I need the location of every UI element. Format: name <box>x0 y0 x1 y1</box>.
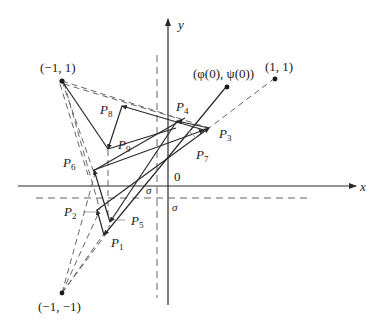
sigma-label-left: σ <box>146 185 151 196</box>
bottom-left-point-label: (−1, −1) <box>38 300 81 313</box>
label-p2: P2 <box>64 205 76 221</box>
label-p3: P3 <box>219 127 231 143</box>
segment-extra <box>93 118 185 171</box>
label-p4: P4 <box>176 100 188 116</box>
segment-p7-p8 <box>122 106 204 130</box>
sigma-label-right: σ <box>172 202 177 213</box>
label-p6: P6 <box>63 156 75 172</box>
point-bottom-left <box>60 291 65 296</box>
start-point-label: (φ(0), ψ(0)) <box>193 67 254 80</box>
top-right-point-label: (1, 1) <box>265 60 293 73</box>
label-p8: P8 <box>100 103 112 119</box>
segment-p1-p2 <box>97 210 104 235</box>
point-top-right <box>273 77 278 82</box>
point-start <box>225 85 230 90</box>
y-axis-label: y <box>178 18 184 31</box>
point-top-left <box>59 78 64 83</box>
x-axis-label: x <box>360 180 366 193</box>
label-p1: P1 <box>111 236 123 252</box>
label-p5: P5 <box>131 214 143 230</box>
top-left-point-label: (−1, 1) <box>40 61 76 74</box>
label-p7: P7 <box>196 148 208 164</box>
iteration-diagram <box>0 0 367 331</box>
label-p9: P9 <box>118 138 130 154</box>
origin-label: 0 <box>174 170 181 183</box>
